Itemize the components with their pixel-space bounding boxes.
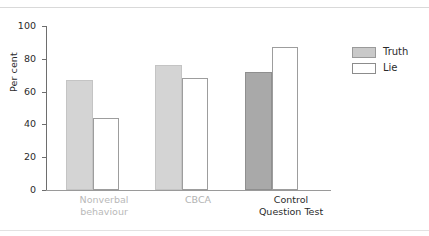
y-tick-label-60: 60 [24,87,36,97]
x-axis-labels: Nonverbalbehaviour CBCA ControlQuestion … [46,194,336,230]
chart-legend: Truth Lie [352,45,426,77]
x-label-line2: Question Test [259,206,323,217]
bar-cbca-truth[interactable] [155,65,182,190]
legend-swatch-lie-icon [352,63,376,74]
x-label-nonverbal-behaviour: Nonverbalbehaviour [54,194,154,217]
x-axis-line [46,190,331,191]
x-label-line1: Nonverbal [80,194,129,205]
y-tick-0: 0 [42,190,46,191]
x-label-control-question-test: ControlQuestion Test [236,194,346,217]
legend-item-lie[interactable]: Lie [352,61,426,75]
plot-area: 100 80 60 40 20 0 [46,26,331,192]
bars-layer [46,26,331,190]
y-tick-label-40: 40 [24,120,36,130]
legend-item-truth[interactable]: Truth [352,45,426,59]
x-label-line1: CBCA [185,194,211,205]
y-axis-title: Per cent [8,52,19,92]
legend-label-truth: Truth [383,47,408,57]
bar-nonverbal-truth[interactable] [66,80,93,190]
y-tick-label-20: 20 [24,152,36,162]
y-tick-label-80: 80 [24,54,36,64]
legend-swatch-truth-icon [352,47,376,58]
bar-control-question-test-truth[interactable] [245,72,272,190]
x-label-line2: behaviour [80,206,128,217]
top-divider [0,7,429,8]
bottom-divider [0,230,429,231]
bar-nonverbal-lie[interactable] [93,118,119,190]
bar-cbca-lie[interactable] [182,78,208,190]
x-label-cbca: CBCA [158,194,238,206]
y-tick-label-0: 0 [30,185,36,195]
x-label-line1: Control [274,194,308,205]
bar-control-question-test-lie[interactable] [272,47,298,190]
legend-label-lie: Lie [383,63,398,73]
chart-figure: Per cent 100 80 60 40 20 0 [0,0,429,236]
y-tick-label-100: 100 [18,21,36,31]
